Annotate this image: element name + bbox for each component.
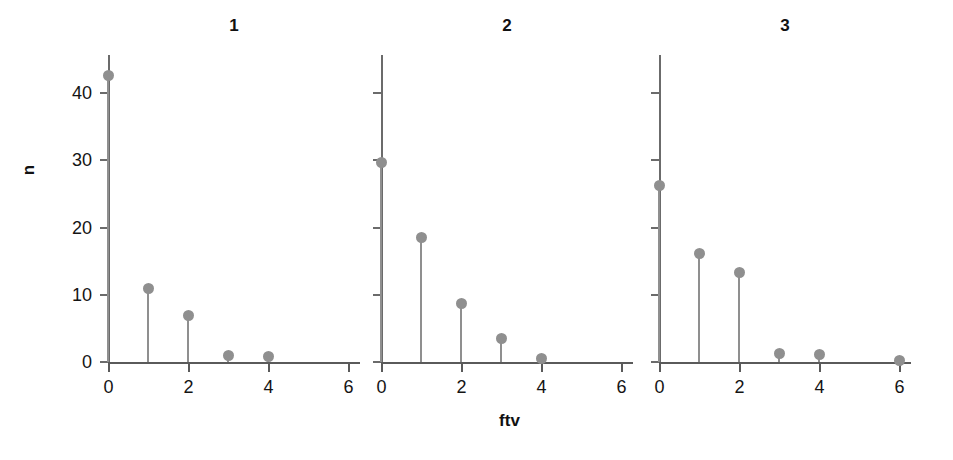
x-axis-tick-label: 0 (639, 378, 680, 396)
data-point-marker (894, 355, 905, 366)
x-axis-spine (659, 362, 911, 364)
data-point-marker (694, 248, 705, 259)
data-point-marker (814, 349, 825, 360)
panel-3: 3 0246 (0, 0, 953, 460)
stem-plot-figure: n ftv 1 0102030400246 2 0246 3 0246 (0, 0, 953, 460)
x-axis-tick-label: 6 (879, 378, 920, 396)
y-axis-tick (651, 159, 659, 161)
stem-line (738, 273, 740, 362)
x-axis-tick-label: 4 (799, 378, 840, 396)
plot-area: 0246 (0, 0, 953, 460)
stem-line (658, 185, 660, 362)
data-point-marker (774, 348, 785, 359)
x-axis-tick (739, 364, 741, 372)
stem-line (698, 253, 700, 362)
x-axis-tick (819, 364, 821, 372)
data-point-marker (734, 267, 745, 278)
x-axis-tick-label: 2 (719, 378, 760, 396)
y-axis-tick (651, 92, 659, 94)
data-point-marker (654, 180, 665, 191)
x-axis-tick (659, 364, 661, 372)
